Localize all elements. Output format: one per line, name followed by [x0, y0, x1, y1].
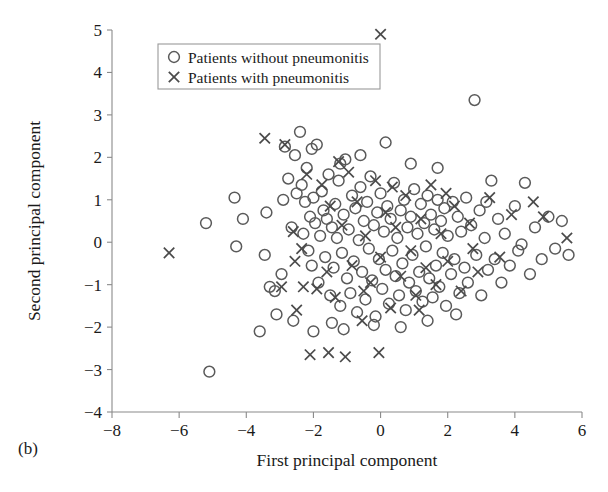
- circle-marker-icon: [412, 228, 423, 239]
- cross-marker-icon: [375, 29, 385, 39]
- cross-marker-icon: [323, 347, 333, 357]
- circle-marker-icon: [493, 213, 504, 224]
- cross-marker-icon: [538, 212, 548, 222]
- circle-marker-icon: [483, 264, 494, 275]
- y-tick-label: −4: [84, 403, 103, 422]
- circle-marker-icon: [536, 254, 547, 265]
- circle-marker-icon: [333, 175, 344, 186]
- circle-marker-icon: [486, 175, 497, 186]
- y-tick-label: −1: [84, 276, 102, 295]
- cross-marker-icon: [528, 197, 538, 207]
- cross-marker-icon: [416, 214, 426, 224]
- cross-marker-icon: [390, 222, 400, 232]
- circle-marker-icon: [261, 207, 272, 218]
- circle-marker-icon: [259, 250, 270, 261]
- plot-canvas: −4−3−2−1012345−8−6−4−20246 Patients with…: [0, 0, 608, 492]
- cross-marker-icon: [426, 180, 436, 190]
- circle-marker-icon: [525, 269, 536, 280]
- circle-marker-icon: [357, 267, 368, 278]
- circle-marker-icon: [395, 205, 406, 216]
- legend-item[interactable]: Patients with pneumonitis: [169, 69, 349, 86]
- legend: Patients without pneumonitisPatients wit…: [158, 44, 380, 89]
- circle-marker-icon: [295, 126, 306, 137]
- circle-marker-icon: [499, 228, 510, 239]
- y-tick-label: 4: [94, 63, 103, 82]
- circle-marker-icon: [337, 247, 348, 258]
- circle-marker-icon: [342, 273, 353, 284]
- y-tick-label: −2: [84, 318, 102, 337]
- circle-marker-icon: [362, 197, 373, 208]
- circle-marker-icon: [384, 298, 395, 309]
- cross-marker-icon: [484, 192, 494, 202]
- circle-marker-icon: [306, 260, 317, 271]
- circle-marker-icon: [345, 288, 356, 299]
- circle-marker-icon: [286, 222, 297, 233]
- circle-marker-icon: [353, 235, 364, 246]
- cross-marker-icon: [374, 347, 384, 357]
- y-tick-label: 1: [94, 191, 103, 210]
- circle-marker-icon: [496, 277, 507, 288]
- x-tick-label: 4: [511, 421, 520, 440]
- circle-marker-icon: [298, 228, 309, 239]
- cross-marker-icon: [298, 282, 308, 292]
- circle-marker-icon: [513, 245, 524, 256]
- scatter-plot-figure: −4−3−2−1012345−8−6−4−20246 Patients with…: [0, 0, 608, 492]
- circle-marker-icon: [390, 271, 401, 282]
- circle-marker-icon: [271, 309, 282, 320]
- circle-marker-icon: [520, 177, 531, 188]
- circle-marker-icon: [459, 262, 470, 273]
- y-tick-label: 3: [94, 106, 103, 125]
- circle-marker-icon: [326, 222, 337, 233]
- x-tick-label: −6: [170, 421, 188, 440]
- circle-marker-icon: [446, 269, 457, 280]
- x-tick-label: 6: [578, 421, 587, 440]
- circle-marker-icon: [461, 192, 472, 203]
- circle-marker-icon: [409, 184, 420, 195]
- circle-marker-icon: [347, 190, 358, 201]
- circle-marker-icon: [422, 315, 433, 326]
- cross-marker-icon: [473, 267, 483, 277]
- x-tick-label: −8: [103, 421, 121, 440]
- circle-marker-icon: [405, 211, 416, 222]
- series-without-pneumonitis: [201, 95, 574, 377]
- cross-marker-icon: [164, 248, 174, 258]
- x-axis-title: First principal component: [257, 450, 438, 470]
- cross-marker-icon: [317, 180, 327, 190]
- circle-marker-icon: [476, 290, 487, 301]
- circle-marker-icon: [375, 188, 386, 199]
- circle-marker-icon: [451, 309, 462, 320]
- circle-marker-icon: [377, 284, 388, 295]
- circle-marker-icon: [394, 290, 405, 301]
- cross-marker-icon: [312, 284, 322, 294]
- cross-marker-icon: [441, 188, 451, 198]
- circle-marker-icon: [402, 222, 413, 233]
- x-tick-label: 2: [443, 421, 452, 440]
- circle-marker-icon: [238, 213, 249, 224]
- circle-marker-icon: [276, 269, 287, 280]
- circle-marker-icon: [231, 241, 242, 252]
- cross-marker-icon: [357, 316, 367, 326]
- circle-marker-icon: [422, 190, 433, 201]
- circle-marker-icon: [204, 366, 215, 377]
- circle-marker-icon: [427, 292, 438, 303]
- legend-item[interactable]: Patients without pneumonitis: [169, 49, 369, 66]
- circle-marker-icon: [288, 315, 299, 326]
- circle-marker-icon: [563, 250, 574, 261]
- circle-marker-icon: [432, 163, 443, 174]
- circle-marker-icon: [420, 241, 431, 252]
- circle-marker-icon: [431, 260, 442, 271]
- circle-marker-icon: [530, 222, 541, 233]
- panel-label: (b): [18, 439, 38, 458]
- cross-marker-icon: [290, 256, 300, 266]
- circle-marker-icon: [358, 216, 369, 227]
- cross-marker-icon: [291, 305, 301, 315]
- cross-marker-icon: [443, 256, 453, 266]
- circle-marker-icon: [338, 324, 349, 335]
- x-tick-label: 0: [376, 421, 385, 440]
- circle-marker-icon: [332, 233, 343, 244]
- circle-marker-icon: [400, 305, 411, 316]
- cross-marker-icon: [296, 243, 306, 253]
- circle-marker-icon: [434, 281, 445, 292]
- circle-marker-icon: [308, 326, 319, 337]
- circle-marker-icon: [441, 300, 452, 311]
